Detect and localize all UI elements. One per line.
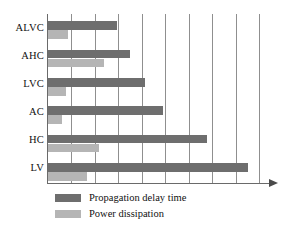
bar-ahc-power-dissipation: [48, 59, 104, 68]
bar-lv-power-dissipation: [48, 172, 87, 181]
gridline: [189, 14, 190, 184]
legend-item-propagation-delay-time: Propagation delay time: [55, 191, 186, 205]
bar-hc-propagation-delay-time: [48, 135, 207, 144]
gridline: [165, 14, 166, 184]
category-axis: ALVC AHC LVC AC HC LV: [0, 0, 44, 236]
bar-alvc-power-dissipation: [48, 30, 68, 39]
bar-lvc-power-dissipation: [48, 87, 66, 96]
gridline: [118, 14, 119, 184]
legend-swatch-light-icon: [55, 210, 81, 218]
chart-legend: Propagation delay time Power dissipation: [55, 191, 186, 223]
category-label-ahc: AHC: [21, 50, 44, 61]
bar-lvc-propagation-delay-time: [48, 78, 145, 87]
category-label-hc: HC: [29, 134, 44, 145]
bar-alvc-propagation-delay-time: [48, 21, 117, 30]
plot-area: [48, 14, 264, 184]
bar-chart: ALVC AHC LVC AC HC LV Propagation delay …: [0, 0, 297, 236]
category-label-lvc: LVC: [23, 78, 44, 89]
bar-ac-propagation-delay-time: [48, 106, 163, 115]
legend-swatch-dark-icon: [55, 194, 81, 202]
gridline: [142, 14, 143, 184]
gridline: [236, 14, 237, 184]
gridline: [212, 14, 213, 184]
category-label-ac: AC: [29, 106, 44, 117]
axis-arrow-icon: [269, 179, 278, 187]
value-axis-baseline: [48, 183, 272, 184]
legend-label-power-dissipation: Power dissipation: [89, 208, 164, 220]
bar-ahc-propagation-delay-time: [48, 50, 130, 59]
bar-hc-power-dissipation: [48, 144, 99, 153]
gridline: [71, 14, 72, 184]
category-label-alvc: ALVC: [16, 22, 44, 33]
gridline: [259, 14, 260, 184]
gridline: [95, 14, 96, 184]
legend-item-power-dissipation: Power dissipation: [55, 207, 186, 221]
bar-ac-power-dissipation: [48, 115, 62, 124]
category-label-lv: LV: [31, 162, 44, 173]
legend-label-propagation-delay-time: Propagation delay time: [89, 192, 186, 204]
bar-lv-propagation-delay-time: [48, 163, 248, 172]
